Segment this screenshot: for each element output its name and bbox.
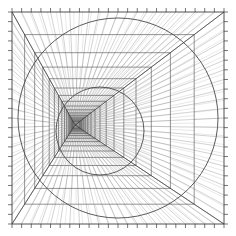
perspective-tunnel-figure	[0, 0, 236, 236]
figure-container: Perspective tunnel of nested squares and…	[0, 0, 236, 236]
